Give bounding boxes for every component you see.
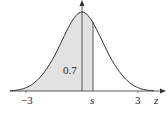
x-axis-arrow-icon bbox=[160, 89, 166, 94]
tick-label-neg3: −3 bbox=[21, 95, 33, 106]
axis-label-z: z bbox=[154, 95, 158, 106]
tick-label-s: s bbox=[90, 95, 94, 106]
y-axis-arrow-icon bbox=[80, 0, 85, 6]
shaded-area bbox=[10, 12, 93, 91]
area-label: 0.7 bbox=[63, 65, 77, 76]
tick-label-3: 3 bbox=[135, 95, 141, 106]
